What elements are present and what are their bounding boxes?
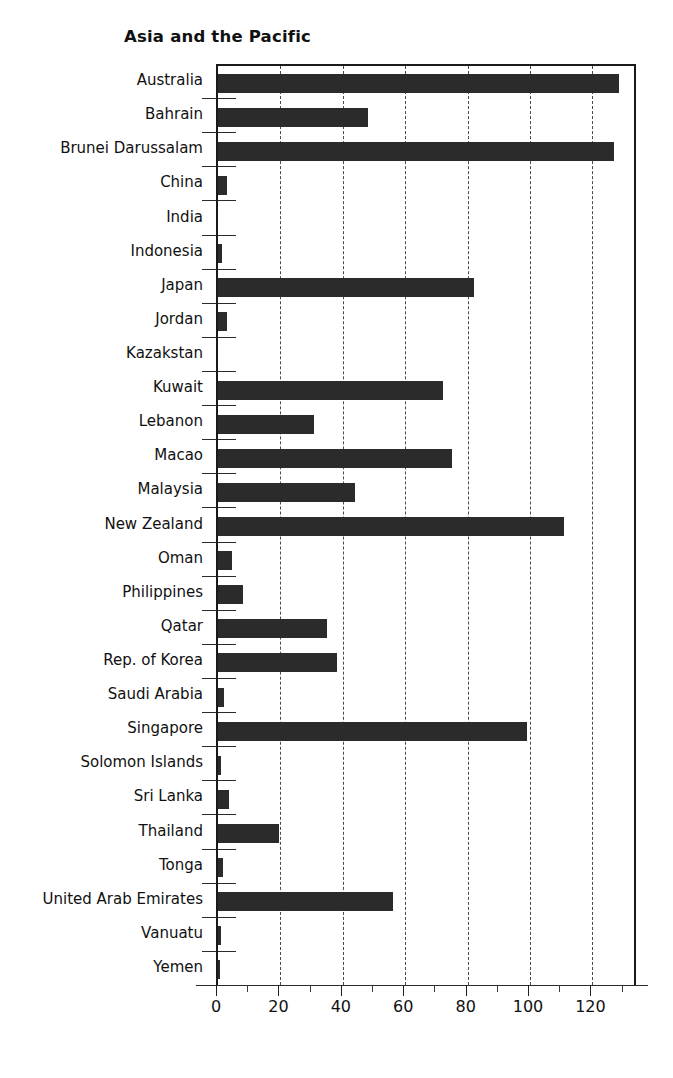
category-label: Rep. of Korea	[0, 651, 210, 669]
bar	[218, 960, 220, 979]
category-label: Vanuatu	[0, 924, 210, 942]
category-label: Jordan	[0, 310, 210, 328]
category-label: Malaysia	[0, 480, 210, 498]
x-tick-minor	[622, 985, 623, 992]
category-label: Yemen	[0, 958, 210, 976]
bar	[218, 688, 224, 707]
category-axis-labels: AustraliaBahrainBrunei DarussalamChinaIn…	[0, 64, 210, 985]
bar	[218, 381, 443, 400]
category-label: Bahrain	[0, 105, 210, 123]
bar-chart: Asia and the Pacific AustraliaBahrainBru…	[0, 0, 673, 1078]
category-label: Brunei Darussalam	[0, 139, 210, 157]
bar	[218, 74, 619, 93]
category-label: Singapore	[0, 719, 210, 737]
x-tick-minor	[559, 985, 560, 992]
x-tick-label: 0	[211, 997, 221, 1016]
x-tick-label: 20	[268, 997, 288, 1016]
category-label: China	[0, 173, 210, 191]
plot-area	[216, 64, 636, 985]
bar	[218, 926, 221, 945]
x-tick-minor	[497, 985, 498, 992]
chart-title: Asia and the Pacific	[124, 27, 311, 46]
x-tick-major-60	[403, 985, 404, 996]
bar	[218, 824, 279, 843]
x-tick-major-0	[216, 985, 217, 996]
bar	[218, 517, 564, 536]
category-label: Philippines	[0, 583, 210, 601]
bar	[218, 142, 614, 161]
category-label: Australia	[0, 71, 210, 89]
x-tick-label: 80	[455, 997, 475, 1016]
bar	[218, 278, 474, 297]
bar	[218, 858, 223, 877]
category-label: New Zealand	[0, 515, 210, 533]
x-tick-minor	[372, 985, 373, 992]
category-label: Oman	[0, 549, 210, 567]
category-label: Kazakstan	[0, 344, 210, 362]
category-label: United Arab Emirates	[0, 890, 210, 908]
category-label: Sri Lanka	[0, 787, 210, 805]
category-label: Japan	[0, 276, 210, 294]
x-tick-label: 120	[575, 997, 606, 1016]
bar	[218, 176, 227, 195]
category-label: Lebanon	[0, 412, 210, 430]
x-axis-tick-labels: 020406080100120	[0, 997, 673, 1023]
x-tick-minor	[434, 985, 435, 992]
category-label: India	[0, 208, 210, 226]
bar	[218, 551, 232, 570]
bar	[218, 722, 527, 741]
category-label: Tonga	[0, 856, 210, 874]
bar	[218, 653, 337, 672]
category-label: Kuwait	[0, 378, 210, 396]
x-tick-major-80	[466, 985, 467, 996]
bar	[218, 449, 452, 468]
bar	[218, 312, 227, 331]
category-label: Qatar	[0, 617, 210, 635]
x-tick-label: 60	[393, 997, 413, 1016]
bar-series	[218, 66, 634, 985]
category-label: Saudi Arabia	[0, 685, 210, 703]
x-tick-label: 40	[331, 997, 351, 1016]
x-tick-major-100	[528, 985, 529, 996]
category-label: Solomon Islands	[0, 753, 210, 771]
bar	[218, 108, 368, 127]
bar	[218, 619, 327, 638]
bar	[218, 244, 222, 263]
bar	[218, 585, 243, 604]
x-tick-major-20	[278, 985, 279, 996]
x-tick-major-40	[341, 985, 342, 996]
bar	[218, 756, 221, 775]
category-label: Macao	[0, 446, 210, 464]
category-label: Thailand	[0, 822, 210, 840]
bar	[218, 483, 355, 502]
x-tick-major-120	[590, 985, 591, 996]
bar	[218, 892, 393, 911]
category-label: Indonesia	[0, 242, 210, 260]
bar	[218, 790, 229, 809]
bar	[218, 415, 314, 434]
x-tick-minor	[247, 985, 248, 992]
x-tick-label: 100	[513, 997, 544, 1016]
x-tick-minor	[310, 985, 311, 992]
